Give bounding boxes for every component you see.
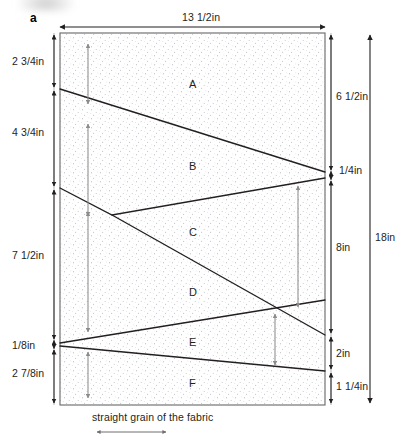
- region-label-B: B: [189, 161, 196, 172]
- region-label-E: E: [189, 337, 196, 348]
- dimension-label-right-2: 1/4in: [339, 165, 362, 176]
- fabric-cutting-diagram: a 13 1/2in 2 3/4in 4 3/4in 7 1/2in 1/8in…: [0, 0, 406, 445]
- dimension-label-right-4: 2in: [336, 348, 350, 359]
- dimension-label-right-5: 1 1/4in: [336, 381, 368, 392]
- panel-label-a: a: [30, 12, 37, 24]
- dimension-label-right-1: 6 1/2in: [336, 91, 368, 102]
- dimension-label-top-width: 13 1/2in: [182, 12, 220, 23]
- region-label-D: D: [189, 287, 197, 298]
- dimension-label-right-3: 8in: [336, 242, 350, 253]
- region-label-A: A: [189, 79, 196, 90]
- diagram-canvas: [0, 0, 406, 445]
- dimension-label-left-1: 2 3/4in: [12, 56, 44, 67]
- dimension-label-left-5: 2 7/8in: [12, 368, 44, 379]
- region-label-C: C: [189, 227, 197, 238]
- dimension-label-right-outer-total: 18in: [375, 232, 395, 243]
- dimension-label-left-4: 1/8in: [12, 340, 35, 351]
- grain-caption: straight grain of the fabric: [92, 412, 213, 423]
- region-label-F: F: [189, 378, 196, 389]
- dimension-label-left-2: 4 3/4in: [12, 127, 44, 138]
- dimension-label-left-3: 7 1/2in: [12, 250, 44, 261]
